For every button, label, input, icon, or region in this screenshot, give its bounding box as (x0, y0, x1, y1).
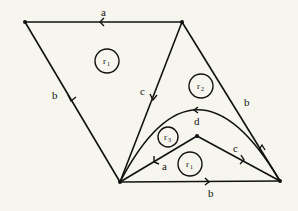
label-inner-c: c (233, 142, 238, 154)
svg-text:2: 2 (201, 86, 204, 92)
arrow-right-b-icon (259, 145, 265, 150)
svg-text:r: r (197, 81, 200, 91)
svg-text:r: r (103, 56, 106, 66)
svg-text:1: 1 (190, 164, 193, 170)
vertex-bottom-left (118, 180, 122, 184)
label-curve-d: d (194, 115, 200, 127)
label-inner-a: a (162, 160, 167, 172)
label-mid-c: c (140, 85, 145, 97)
svg-text:r: r (186, 159, 189, 169)
region-r3: r3 (158, 127, 178, 147)
region-r1-top: r1 (95, 49, 119, 73)
region-r1-bottom: r1 (178, 152, 202, 176)
vertex-inner (195, 134, 199, 138)
edge-bottom-b (120, 181, 280, 182)
vertex-top-left (23, 20, 27, 24)
edge-left-b (25, 22, 120, 182)
label-right-b: b (244, 96, 250, 108)
graph-diagram: a b c b d a c b r1 r2 r3 r1 (0, 0, 298, 211)
svg-text:1: 1 (107, 61, 110, 67)
svg-text:r: r (164, 132, 167, 142)
vertex-bottom-right (278, 179, 282, 183)
label-top-a: a (101, 6, 106, 18)
label-left-b: b (52, 89, 58, 101)
label-bottom-b: b (208, 187, 214, 199)
edge-mid-c (120, 22, 182, 182)
arrow-left-b-icon (68, 95, 76, 101)
edge-inner-c (197, 136, 280, 181)
svg-text:3: 3 (168, 137, 171, 143)
region-r2: r2 (189, 74, 213, 98)
vertex-top-right (180, 20, 184, 24)
